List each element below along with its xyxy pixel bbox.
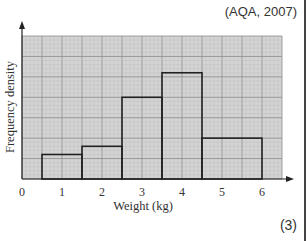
y-axis-label: Frequency density — [3, 60, 17, 153]
x-tick-label: 0 — [19, 185, 25, 199]
x-tick-label: 5 — [219, 185, 225, 199]
x-axis-label: Weight (kg) — [113, 199, 173, 213]
grid-paper — [22, 36, 282, 179]
x-tick-label: 4 — [179, 185, 185, 199]
y-axis-arrow-icon — [19, 21, 25, 29]
x-tick-label: 2 — [99, 185, 105, 199]
histogram-chart: 0123456 Weight (kg) Frequency density — [0, 0, 307, 241]
x-tick-label: 3 — [139, 185, 145, 199]
x-axis-arrow-icon — [286, 176, 294, 182]
x-tick-label: 1 — [59, 185, 65, 199]
x-tick-labels: 0123456 — [19, 185, 265, 199]
marks-label: (3) — [280, 217, 297, 233]
x-tick-label: 6 — [259, 185, 265, 199]
